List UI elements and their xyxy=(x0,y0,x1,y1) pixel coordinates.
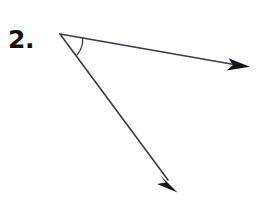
lower-ray-arrowhead xyxy=(157,175,178,193)
upper-ray-line xyxy=(60,34,237,65)
angle-arc xyxy=(77,38,83,55)
lower-ray-line xyxy=(60,34,168,180)
angle-figure: 2. xyxy=(0,0,275,204)
angle-diagram-svg xyxy=(0,0,275,204)
ray-group xyxy=(60,34,250,193)
